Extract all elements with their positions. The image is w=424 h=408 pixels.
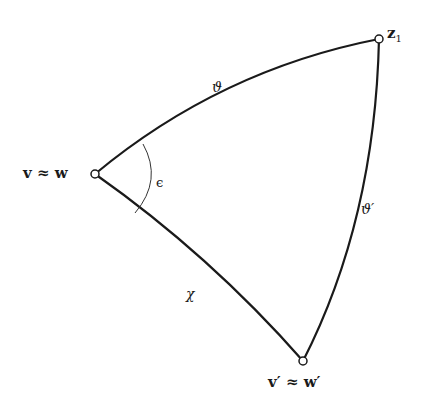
vertex-label-z1: z1 — [387, 26, 402, 44]
vertex-label-z1-subscript: 1 — [396, 33, 402, 44]
angle-label-epsilon: ϵ — [156, 176, 163, 189]
diagram-canvas: v ≈ w z1 v′ ≈ w′ ϑ ϑ′ χ ϵ — [0, 0, 424, 408]
vertex-z1-marker — [375, 35, 383, 43]
edge-theta-prime — [303, 39, 379, 361]
edge-theta — [95, 39, 379, 174]
vertex-label-z1-main: z — [387, 24, 396, 42]
vertex-label-v-approx-w: v ≈ w — [23, 166, 68, 181]
edge-chi — [95, 174, 303, 361]
edge-label-theta: ϑ — [212, 80, 222, 94]
vertex-vpwp-marker — [299, 357, 307, 365]
vertex-label-vprime-approx-wprime: v′ ≈ w′ — [268, 375, 321, 390]
edge-label-theta-prime: ϑ′ — [361, 202, 374, 216]
edge-label-chi: χ — [186, 287, 194, 301]
angle-arc-epsilon — [135, 144, 151, 213]
vertex-vw-marker — [91, 170, 99, 178]
